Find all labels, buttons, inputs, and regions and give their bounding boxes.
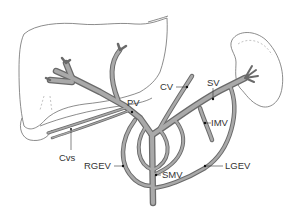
portal-venous-system-diagram: PV CV SV IMV Cvs RGEV LGEV SMV [0,0,292,215]
svg-text:IMV: IMV [211,117,229,128]
svg-text:CV: CV [160,81,174,92]
label-rgev: RGEV [84,160,124,171]
svg-text:PV: PV [127,97,140,108]
svg-text:SV: SV [207,77,220,88]
svg-text:RGEV: RGEV [84,160,112,171]
svg-text:Cvs: Cvs [59,152,76,163]
svg-text:SMV: SMV [162,169,183,180]
svg-text:LGEV: LGEV [225,160,251,171]
